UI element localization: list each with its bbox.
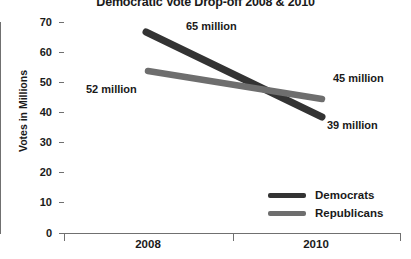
data-label-republicans-2008: 52 million	[86, 83, 137, 95]
legend-swatch-republicans	[268, 211, 306, 216]
data-label-democrats-2008: 65 million	[186, 20, 237, 32]
data-label-democrats-2010: 39 million	[327, 119, 378, 131]
legend-swatch-democrats	[268, 193, 306, 198]
legend-label-republicans: Republicans	[315, 207, 383, 219]
legend-item-democrats: Democrats	[268, 186, 383, 204]
legend-item-republicans: Republicans	[268, 204, 383, 222]
chart-legend: Democrats Republicans	[268, 186, 383, 222]
legend-label-democrats: Democrats	[315, 189, 374, 201]
chart-container: Democratic Vote Drop-off 2008 & 2010 Vot…	[0, 0, 411, 259]
data-label-republicans-2010: 45 million	[333, 72, 384, 84]
